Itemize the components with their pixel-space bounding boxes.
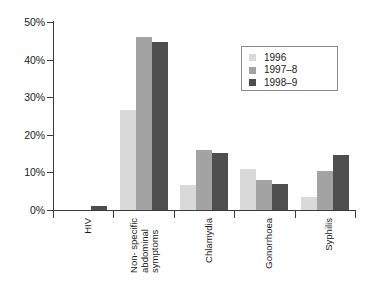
chart-legend: 19961997–81998–9 [241, 46, 338, 91]
bar-chart: 50%40%30%20%10%0% HIVNon- specific abdom… [0, 0, 375, 297]
x-tick-mark [295, 211, 296, 218]
x-tick-mark [53, 211, 54, 218]
legend-swatch-icon [249, 79, 256, 86]
bar [196, 150, 212, 210]
x-axis-line [53, 210, 356, 211]
y-tick-label: 0% [5, 205, 45, 215]
bar [91, 206, 107, 210]
y-tick-mark [47, 97, 53, 98]
bar [212, 153, 228, 210]
category-label: Chlamydia [203, 218, 214, 263]
bar [136, 37, 152, 210]
y-tick-mark [47, 22, 53, 23]
legend-item: 1996 [249, 52, 331, 64]
bar [240, 169, 256, 210]
legend-item: 1997–8 [249, 65, 331, 77]
bar [317, 171, 333, 210]
bar [180, 185, 196, 210]
legend-swatch-icon [249, 67, 256, 74]
y-tick-label: 50% [5, 17, 45, 27]
x-tick-mark [113, 211, 114, 218]
legend-label: 1998–9 [264, 78, 297, 88]
x-tick-mark [355, 211, 356, 218]
bar [256, 180, 272, 210]
y-tick-mark [47, 60, 53, 61]
bar [272, 184, 288, 210]
y-tick-label: 30% [5, 92, 45, 102]
legend-item: 1998–9 [249, 77, 331, 89]
y-tick-label: 40% [5, 55, 45, 65]
category-label: Syphilis [323, 218, 334, 251]
legend-label: 1997–8 [264, 65, 297, 75]
category-label: Non- specific abdominal symptoms [129, 218, 161, 273]
category-label: Gonorrhoea [263, 218, 274, 269]
category-label: HIV [82, 218, 93, 234]
legend-label: 1996 [264, 53, 286, 63]
y-tick-label: 10% [5, 167, 45, 177]
bar [152, 42, 168, 210]
bar [333, 155, 349, 210]
y-tick-mark [47, 172, 53, 173]
x-tick-mark [234, 211, 235, 218]
y-axis-line [53, 21, 54, 211]
bar [301, 197, 317, 210]
legend-swatch-icon [249, 54, 256, 61]
bar [120, 110, 136, 210]
y-tick-label: 20% [5, 130, 45, 140]
x-tick-mark [174, 211, 175, 218]
y-tick-mark [47, 135, 53, 136]
